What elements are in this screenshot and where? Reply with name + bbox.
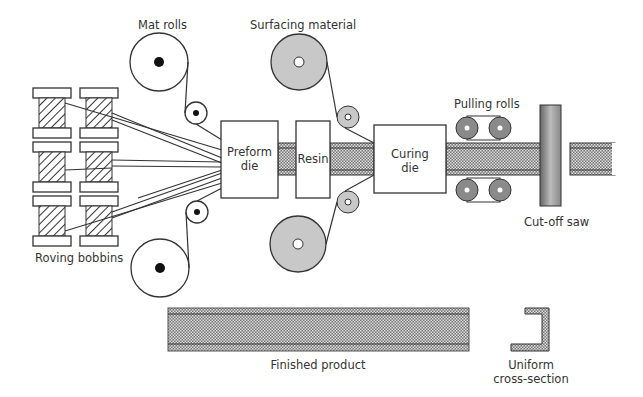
- pultrusion-diagram: Roving bobbins Mat rolls Preform die Res…: [0, 0, 643, 397]
- svg-text:cross-section: cross-section: [493, 372, 568, 386]
- mat-rolls-label: Mat rolls: [138, 18, 187, 32]
- finished-product-label: Finished product: [271, 358, 366, 372]
- resin-bath: Resin: [296, 121, 330, 198]
- cross-section-label: Uniform: [508, 358, 554, 372]
- bobbin: [33, 88, 118, 246]
- preform-die: Preform die: [221, 121, 278, 198]
- finished-product: Finished product: [168, 308, 469, 372]
- preform-die-label: Preform: [227, 145, 272, 159]
- curing-die: Curing die: [374, 125, 446, 193]
- cut-off-saw-label: Cut-off saw: [524, 215, 589, 229]
- svg-text:die: die: [241, 159, 259, 173]
- uniform-cross-section: Uniform cross-section: [493, 308, 568, 386]
- pulling-rolls-label: Pulling rolls: [454, 97, 520, 111]
- resin-label: Resin: [297, 152, 328, 166]
- curing-die-label: Curing: [391, 147, 429, 161]
- svg-text:die: die: [401, 161, 419, 175]
- roving-bobbins-label: Roving bobbins: [35, 251, 123, 265]
- surfacing-material-label: Surfacing material: [250, 18, 356, 32]
